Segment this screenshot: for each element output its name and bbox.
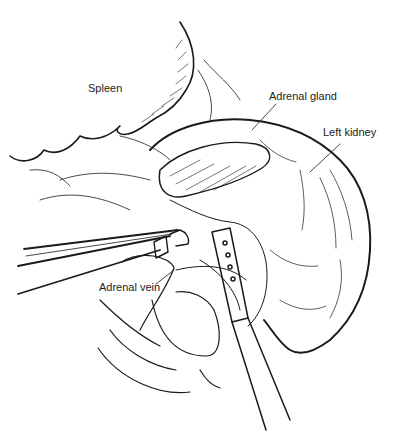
kidney-hatching (260, 140, 352, 318)
illustration-drawing (0, 0, 397, 439)
spleen-label: Spleen (88, 82, 122, 94)
spleen-hatching (142, 40, 188, 122)
left-kidney-label: Left kidney (323, 126, 376, 138)
clip-applicator (154, 230, 189, 258)
adrenal-gland-leader (252, 104, 276, 130)
retractor (212, 228, 290, 430)
adrenal-gland-outline (159, 142, 269, 197)
lower-structures (98, 255, 220, 392)
adrenal-vein-label: Adrenal vein (99, 281, 160, 293)
anatomy-illustration: Spleen Adrenal gland Left kidney Adrenal… (0, 0, 397, 439)
adrenal-gland-label: Adrenal gland (269, 90, 337, 102)
adrenal-gland-hatching (170, 160, 256, 192)
